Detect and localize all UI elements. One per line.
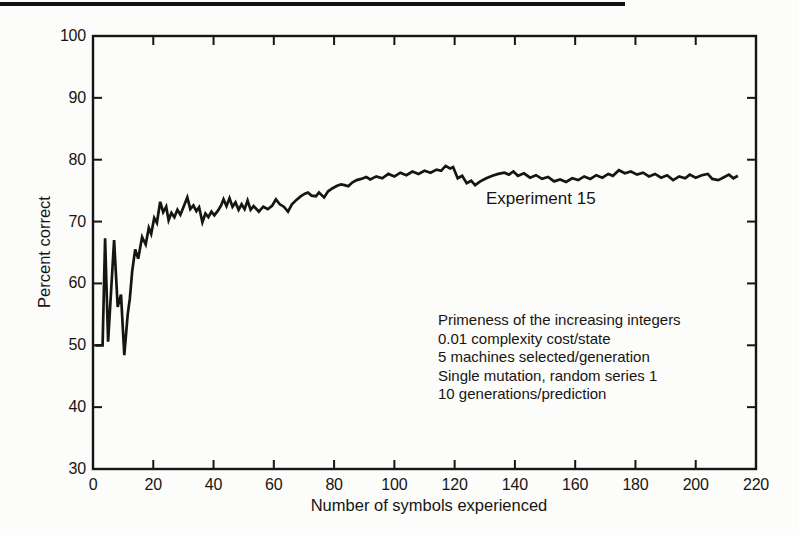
y-tick-label-80: 80 xyxy=(36,150,86,170)
y-tick-label-50: 50 xyxy=(36,335,86,355)
x-tick-label-120: 120 xyxy=(430,475,480,495)
y-tick-label-100: 100 xyxy=(36,26,86,46)
annotation-line: Primeness of the increasing integers xyxy=(438,311,681,330)
x-tick-label-60: 60 xyxy=(249,475,299,495)
x-tick-label-20: 20 xyxy=(128,475,178,495)
x-tick-label-200: 200 xyxy=(671,475,721,495)
x-tick-label-180: 180 xyxy=(610,475,660,495)
plot-area xyxy=(0,0,799,535)
x-axis-title: Number of symbols experienced xyxy=(254,496,604,515)
x-tick-label-40: 40 xyxy=(189,475,239,495)
annotation-block: Primeness of the increasing integers 0.0… xyxy=(438,311,681,404)
annotation-line: 10 generations/prediction xyxy=(438,385,681,404)
plot-frame xyxy=(93,36,756,469)
x-tick-label-160: 160 xyxy=(550,475,600,495)
x-tick-label-100: 100 xyxy=(369,475,419,495)
x-tick-label-0: 0 xyxy=(68,475,118,495)
annotation-line: 0.01 complexity cost/state xyxy=(438,330,681,349)
y-tick-label-90: 90 xyxy=(36,88,86,108)
annotation-line: 5 machines selected/generation xyxy=(438,348,681,367)
figure-page: Percent correct Number of symbols experi… xyxy=(0,0,799,535)
y-tick-label-40: 40 xyxy=(36,397,86,417)
x-tick-label-140: 140 xyxy=(490,475,540,495)
chart: Percent correct Number of symbols experi… xyxy=(0,0,799,535)
y-tick-label-60: 60 xyxy=(36,273,86,293)
x-tick-label-80: 80 xyxy=(309,475,359,495)
series-label: Experiment 15 xyxy=(486,189,596,209)
annotation-line: Single mutation, random series 1 xyxy=(438,367,681,386)
y-tick-label-70: 70 xyxy=(36,212,86,232)
x-tick-label-220: 220 xyxy=(731,475,781,495)
